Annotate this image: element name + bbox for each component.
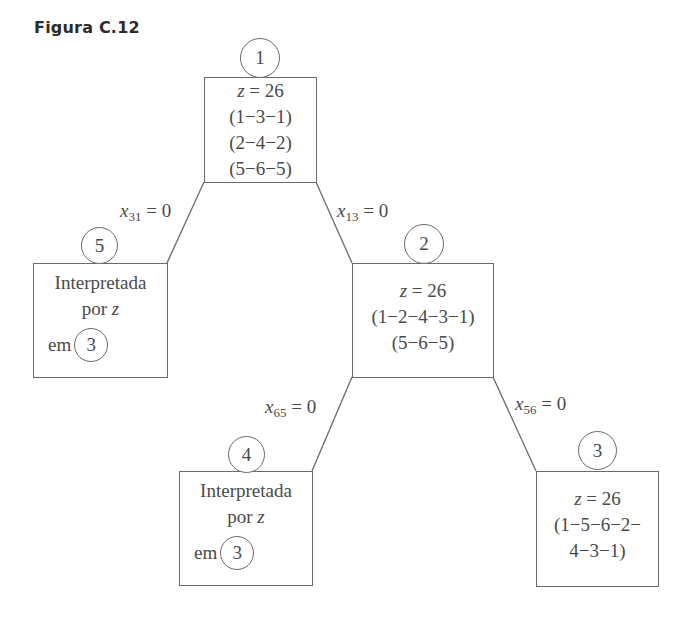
node-5-label: 5: [81, 227, 118, 264]
node-3-tour: 4−3−1): [537, 538, 658, 564]
node-3-z: z = 26: [537, 486, 658, 512]
edge-cond: = 0: [291, 396, 316, 417]
node-3-tour: (1−5−6−2−: [537, 512, 658, 538]
node-5-in: em 3: [34, 328, 167, 362]
edge-sub: 13: [345, 209, 358, 224]
node-1-tour: (2−4−2): [205, 130, 316, 156]
node-5-box: Interpretada por z em 3: [33, 263, 168, 378]
edge-label-x31: x31 = 0: [120, 200, 171, 225]
edge-label-x13: x13 = 0: [337, 200, 388, 225]
z-variable: z: [257, 506, 264, 527]
by-text: por: [82, 298, 107, 319]
node-5-by: por z: [34, 296, 167, 322]
node-ref-circle: 3: [220, 536, 254, 570]
z-variable: z: [400, 280, 407, 301]
node-ref-circle: 3: [74, 328, 108, 362]
node-2-label: 2: [404, 224, 444, 264]
node-1-tour: (1−3−1): [205, 104, 316, 130]
edge-cond: = 0: [363, 200, 388, 221]
edge-sub: 65: [273, 405, 286, 420]
node-4-by: por z: [180, 504, 312, 530]
node-2-tour: (5−6−5): [353, 330, 493, 356]
node-4-box: Interpretada por z em 3: [179, 471, 313, 586]
node-4-label: 4: [228, 436, 265, 473]
edge-label-x65: x65 = 0: [265, 396, 316, 421]
node-3-box: z = 26 (1−5−6−2− 4−3−1): [536, 471, 659, 587]
edge-2-4: [312, 377, 352, 471]
node-4-status: Interpretada: [180, 478, 312, 504]
node-1-label: 1: [240, 38, 280, 78]
node-3-label: 3: [578, 431, 617, 470]
z-variable: z: [574, 488, 581, 509]
edge-sub: 56: [523, 402, 536, 417]
node-4-in: em 3: [180, 536, 312, 570]
node-2-box: z = 26 (1−2−4−3−1) (5−6−5): [352, 263, 494, 378]
edge-cond: = 0: [146, 200, 171, 221]
edge-cond: = 0: [541, 393, 566, 414]
node-2-z: z = 26: [353, 278, 493, 304]
in-text: em: [194, 540, 217, 566]
node-1-z: z = 26: [205, 78, 316, 104]
edge-2-3: [493, 377, 536, 471]
node-1-box: z = 26 (1−3−1) (2−4−2) (5−6−5): [204, 77, 317, 183]
node-5-status: Interpretada: [34, 270, 167, 296]
by-text: por: [227, 506, 252, 527]
z-value: = 26: [412, 280, 446, 301]
node-1-tour: (5−6−5): [205, 156, 316, 182]
node-2-tour: (1−2−4−3−1): [353, 304, 493, 330]
z-value: = 26: [249, 80, 283, 101]
z-value: = 26: [586, 488, 620, 509]
z-variable: z: [112, 298, 119, 319]
in-text: em: [48, 332, 71, 358]
z-variable: z: [237, 80, 244, 101]
edge-label-x56: x56 = 0: [515, 393, 566, 418]
edge-sub: 31: [128, 209, 141, 224]
edge-1-5: [167, 182, 204, 263]
